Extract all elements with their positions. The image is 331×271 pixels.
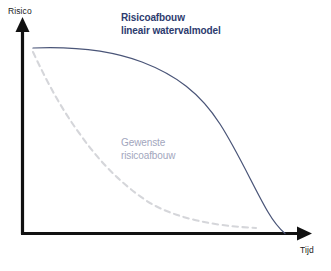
waterfall-annotation-line-1: Risicoafbouw [121,12,221,25]
x-axis-label: Tijd [300,245,314,255]
waterfall-curve-annotation: Risicoafbouw lineair watervalmodel [121,12,221,37]
desired-curve-annotation: Gewenste risicoafbouw [121,137,175,162]
y-axis-arrowhead [16,17,30,32]
risk-reduction-chart: Risico Tijd Risicoafbouw lineair waterva… [0,0,331,271]
chart-canvas [0,0,331,271]
x-axis-arrowhead [297,227,312,241]
waterfall-annotation-line-2: lineair watervalmodel [121,25,221,38]
desired-annotation-line-1: Gewenste [121,137,175,150]
desired-annotation-line-2: risicoafbouw [121,150,175,163]
y-axis-label: Risico [8,6,32,16]
